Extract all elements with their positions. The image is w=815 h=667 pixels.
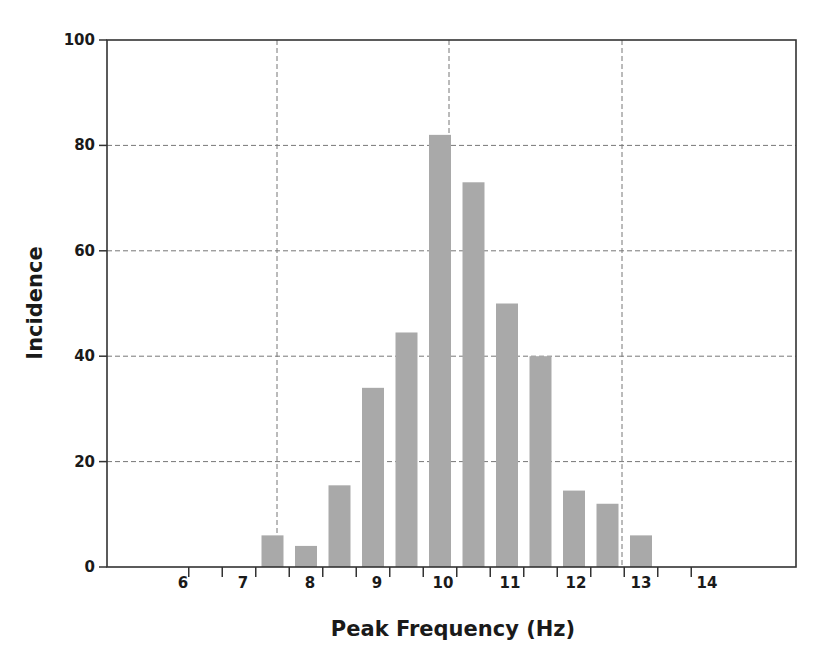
bar	[563, 491, 585, 567]
x-tick-label: 9	[372, 574, 382, 592]
bar	[329, 485, 351, 567]
bar	[295, 546, 317, 567]
x-axis-ticks: 67891011121314	[178, 567, 718, 592]
y-axis-ticks: 020406080100	[64, 31, 107, 576]
y-axis-title: Incidence	[23, 246, 47, 359]
x-tick-label: 10	[433, 574, 454, 592]
bar	[496, 304, 518, 568]
y-tick-label: 40	[74, 347, 95, 365]
bar	[530, 356, 552, 567]
y-tick-label: 0	[85, 558, 95, 576]
bar	[630, 535, 652, 567]
x-tick-label: 12	[566, 574, 587, 592]
histogram-chart: 020406080100 67891011121314 Peak Frequen…	[0, 0, 815, 667]
y-tick-label: 60	[74, 242, 95, 260]
bar	[262, 535, 284, 567]
x-tick-label: 11	[500, 574, 521, 592]
bars	[262, 135, 653, 567]
x-tick-label: 13	[631, 574, 652, 592]
bar	[597, 504, 619, 567]
y-tick-label: 20	[74, 453, 95, 471]
bar	[362, 388, 384, 567]
x-tick-label: 6	[178, 574, 188, 592]
x-tick-label: 8	[305, 574, 315, 592]
bar	[429, 135, 451, 567]
plot-frame	[107, 40, 796, 567]
bar	[396, 332, 418, 567]
bar	[463, 182, 485, 567]
x-tick-label: 14	[697, 574, 718, 592]
axes	[107, 40, 796, 567]
x-axis-title: Peak Frequency (Hz)	[331, 617, 575, 641]
gridlines	[107, 40, 796, 567]
x-tick-label: 7	[238, 574, 248, 592]
y-tick-label: 80	[74, 136, 95, 154]
y-tick-label: 100	[64, 31, 95, 49]
